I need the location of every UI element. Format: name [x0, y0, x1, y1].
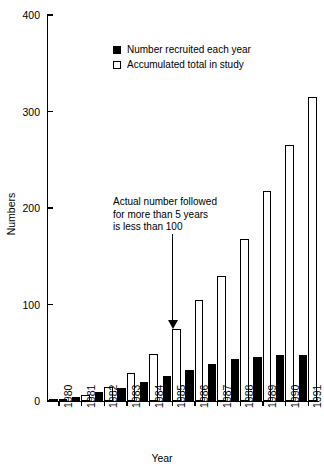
legend-item-recruited: Number recruited each year: [113, 42, 251, 57]
x-tick-1981: [81, 401, 82, 406]
y-tick-label-400: 400: [8, 10, 40, 21]
y-axis-title: Numbers: [5, 179, 17, 249]
y-tick-label-300: 300: [8, 107, 40, 118]
x-tick-1985: [172, 401, 173, 406]
annotation-arrow-line: [172, 234, 173, 323]
legend-label-recruited: Number recruited each year: [127, 42, 251, 57]
y-tick-label-100: 100: [8, 300, 40, 311]
legend: Number recruited each year Accumulated t…: [113, 42, 251, 72]
x-tick-1987: [217, 401, 218, 406]
x-tick-label-1985: 1985: [176, 385, 187, 408]
bar-accumulated-1988: [240, 239, 249, 401]
open-square-icon: [113, 61, 121, 69]
x-tick-label-1988: 1988: [244, 385, 255, 408]
bar-chart: 0100200300400 Numbers 198019811982198319…: [0, 0, 324, 471]
x-tick-1990: [285, 401, 286, 406]
x-tick-label-1981: 1981: [86, 385, 97, 408]
x-tick-1989: [262, 401, 263, 406]
bar-accumulated-1991: [308, 97, 317, 401]
x-tick-1982: [104, 401, 105, 406]
x-tick-1991: [308, 401, 309, 406]
bar-accumulated-1987: [217, 276, 226, 401]
x-tick-label-1986: 1986: [199, 385, 210, 408]
x-tick-label-1990: 1990: [290, 385, 301, 408]
x-tick-label-1989: 1989: [267, 385, 278, 408]
x-tick-1984: [149, 401, 150, 406]
x-tick-label-1982: 1982: [108, 385, 119, 408]
x-tick-label-1983: 1983: [131, 385, 142, 408]
x-tick-label-1980: 1980: [63, 385, 74, 408]
legend-label-accumulated: Accumulated total in study: [127, 57, 244, 72]
x-axis-title: Year: [0, 452, 324, 464]
x-tick-label-1987: 1987: [222, 385, 233, 408]
x-tick-1983: [126, 401, 127, 406]
annotation-arrow-head-icon: [168, 320, 178, 329]
bar-accumulated-1989: [263, 191, 272, 401]
filled-square-icon: [113, 46, 121, 54]
bar-accumulated-1990: [285, 145, 294, 401]
x-tick-label-1991: 1991: [312, 385, 323, 408]
x-tick-label-1984: 1984: [154, 385, 165, 408]
bar-recruited-1980: [49, 399, 58, 401]
x-tick-1988: [240, 401, 241, 406]
y-tick-label-0: 0: [8, 396, 40, 407]
x-tick-1986: [194, 401, 195, 406]
annotation-text: Actual number followed for more than 5 y…: [113, 196, 217, 234]
legend-item-accumulated: Accumulated total in study: [113, 57, 251, 72]
x-tick-1980: [58, 401, 59, 406]
